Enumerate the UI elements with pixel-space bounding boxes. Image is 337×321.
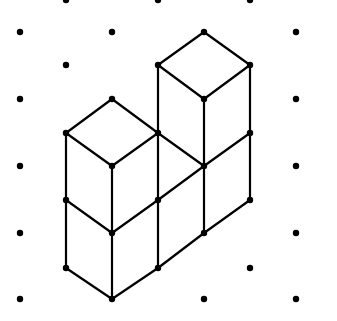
grid-dot <box>247 0 253 3</box>
grid-dot <box>63 62 69 68</box>
grid-dot <box>293 296 299 302</box>
cube-vertex <box>155 265 161 271</box>
cube-edge <box>66 99 112 133</box>
grid-dot <box>293 29 299 35</box>
cube-edge <box>66 133 112 166</box>
grid-dot <box>17 163 23 169</box>
cube-edge <box>204 133 250 166</box>
isometric-cube-diagram <box>0 0 337 321</box>
grid-dot <box>17 29 23 35</box>
cube-edge <box>112 200 158 233</box>
cube-edge <box>158 133 204 166</box>
cube-edge <box>66 200 112 233</box>
cube-vertex <box>247 197 253 203</box>
cube-vertex <box>201 96 207 102</box>
cube-vertex <box>63 130 69 136</box>
grid-dot <box>201 296 207 302</box>
cube-edge <box>112 268 158 299</box>
cube-edge <box>158 233 204 268</box>
grid-dot <box>17 230 23 236</box>
cube-edge <box>158 32 204 65</box>
cube-vertex <box>63 265 69 271</box>
grid-dot <box>155 0 161 3</box>
cube-edge <box>66 268 112 299</box>
cube-vertex <box>109 96 115 102</box>
cube-vertex <box>109 296 115 302</box>
cube-edge <box>112 133 158 166</box>
cube-edge <box>204 32 250 65</box>
cube-vertex <box>109 163 115 169</box>
cube-vertex <box>109 230 115 236</box>
cube-edge <box>204 65 250 99</box>
grid-dot <box>17 296 23 302</box>
cube-vertex <box>155 197 161 203</box>
cube-edge <box>158 166 204 200</box>
grid-dot <box>293 230 299 236</box>
cube-edges <box>66 32 250 299</box>
cube-vertex <box>155 130 161 136</box>
cube-edge <box>112 99 158 133</box>
grid-dot <box>63 0 69 3</box>
cube-vertex <box>155 62 161 68</box>
grid-dot <box>293 96 299 102</box>
cube-vertex <box>247 62 253 68</box>
cube-edge <box>158 65 204 99</box>
cube-vertex <box>247 130 253 136</box>
cube-vertex <box>201 29 207 35</box>
cube-edge <box>204 200 250 233</box>
cube-vertex <box>63 197 69 203</box>
cube-vertex <box>201 163 207 169</box>
grid-dot <box>17 96 23 102</box>
grid-dot <box>293 163 299 169</box>
cube-vertex <box>201 230 207 236</box>
grid-dot <box>247 265 253 271</box>
grid-dot <box>109 29 115 35</box>
